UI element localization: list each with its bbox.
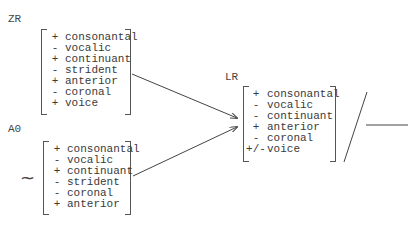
a0-label: A0	[8, 124, 21, 135]
feature-row: +anterior	[47, 199, 140, 210]
zr-label: ZR	[8, 14, 21, 25]
arrow-zr-to-lr	[132, 74, 237, 118]
environment-slash	[344, 92, 367, 162]
arrow-a0-to-lr	[133, 127, 237, 176]
feature-row: +/-voice	[245, 144, 340, 155]
lr-label: LR	[225, 72, 238, 83]
lr-feature-matrix: +consonantal -vocalic -continuant +anter…	[243, 86, 336, 162]
a0-feature-matrix: +consonantal -vocalic +continuant -strid…	[43, 141, 131, 215]
tilde-symbol: ~	[20, 169, 35, 187]
feature-row: +voice	[45, 98, 138, 109]
zr-feature-matrix: +consonantal -vocalic +continuant -strid…	[41, 29, 131, 115]
